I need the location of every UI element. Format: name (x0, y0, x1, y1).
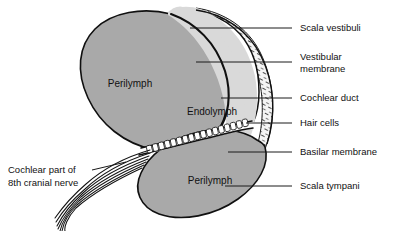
label-vestibular-membrane-line1: Vestibular (300, 51, 342, 62)
label-scala-vestibuli: Scala vestibuli (300, 22, 361, 33)
label-cochlear-nerve-line1: Cochlear part of (8, 164, 76, 175)
label-perilymph-upper: Perilymph (108, 78, 152, 89)
label-cochlear-duct: Cochlear duct (300, 92, 359, 103)
label-scala-tympani: Scala tympani (300, 180, 360, 191)
label-perilymph-lower: Perilymph (188, 175, 232, 186)
label-basilar-membrane: Basilar membrane (300, 146, 377, 157)
cochlea-diagram: Perilymph Endolymph Perilymph Scala vest… (0, 0, 402, 231)
label-vestibular-membrane-line2: membrane (300, 63, 345, 74)
label-cochlear-nerve-line2: 8th cranial nerve (8, 177, 78, 188)
label-hair-cells: Hair cells (300, 117, 339, 128)
leader-cochlear-nerve (92, 162, 126, 170)
cochlea-illustration: Perilymph Endolymph Perilymph Scala vest… (0, 0, 402, 231)
callout-leader-left (92, 162, 126, 170)
nerve-fiber-bundle (55, 150, 150, 231)
label-endolymph: Endolymph (187, 106, 237, 117)
